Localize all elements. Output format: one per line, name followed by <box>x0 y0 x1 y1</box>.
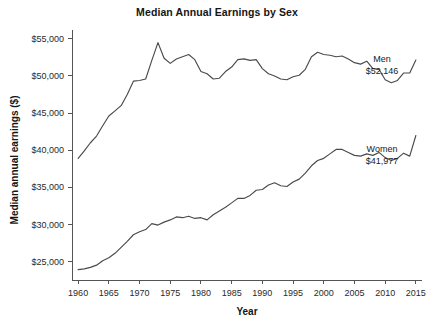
x-axis-title: Year <box>236 306 257 317</box>
x-tick-label: 2015 <box>406 288 426 298</box>
x-tick-label: 1980 <box>191 288 211 298</box>
women-annotation-label: Women <box>367 144 398 154</box>
men-annotation-label: Men <box>373 54 391 64</box>
x-tick-label: 1970 <box>130 288 150 298</box>
y-tick-label: $40,000 <box>31 145 64 155</box>
chart-title: Median Annual Earnings by Sex <box>136 6 298 18</box>
x-tick-label: 2005 <box>344 288 364 298</box>
men-annotation-value: $52,146 <box>366 66 399 76</box>
x-tick-label: 1995 <box>283 288 303 298</box>
x-tick-label: 1985 <box>222 288 242 298</box>
x-tick-label: 2000 <box>314 288 334 298</box>
earnings-line-chart: Median Annual Earnings by Sex Median ann… <box>0 0 435 321</box>
women-annotation-value: $41,977 <box>366 156 399 166</box>
y-tick-label: $45,000 <box>31 108 64 118</box>
y-tick-label: $35,000 <box>31 182 64 192</box>
y-tick-label: $25,000 <box>31 257 64 267</box>
x-tick-label: 1975 <box>160 288 180 298</box>
x-tick-label: 1960 <box>68 288 88 298</box>
x-tick-label: 1965 <box>99 288 119 298</box>
y-axis-title: Median annual earnings ($) <box>9 96 20 225</box>
y-tick-label: $55,000 <box>31 34 64 44</box>
x-tick-label: 1990 <box>252 288 272 298</box>
y-tick-label: $30,000 <box>31 220 64 230</box>
x-tick-label: 2010 <box>375 288 395 298</box>
y-tick-label: $50,000 <box>31 71 64 81</box>
